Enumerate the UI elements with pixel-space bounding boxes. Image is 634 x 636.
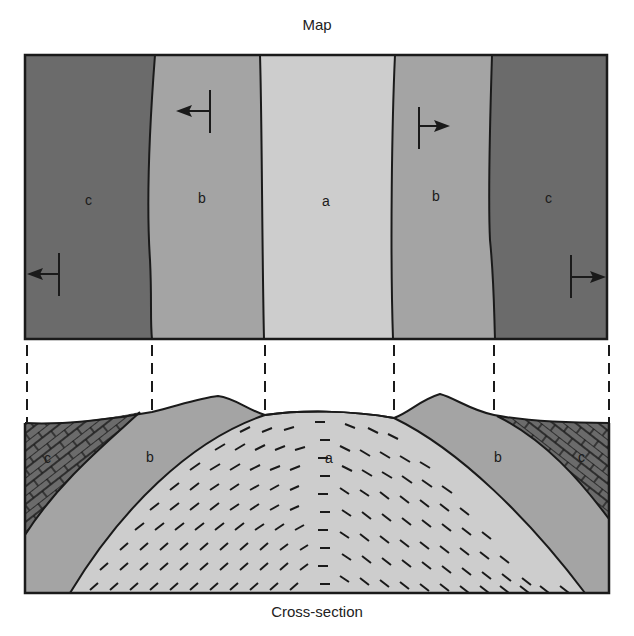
cross-section: c b a b c [25, 394, 609, 593]
map-label-b-right: b [432, 188, 440, 204]
map-label-c-right: c [545, 190, 552, 206]
diagram-canvas: c b a b c [0, 0, 634, 636]
xs-label-b-right: b [494, 449, 502, 465]
map-label-b-left: b [198, 190, 206, 206]
map-label-a: a [322, 193, 330, 209]
xs-label-c-right: c [578, 449, 585, 465]
map-label-c-left: c [85, 192, 92, 208]
map-unit-b-right [392, 55, 495, 339]
geologic-map: c b a b c [25, 55, 607, 339]
cross-section-title: Cross-section [0, 603, 634, 620]
map-unit-b-left [148, 55, 264, 339]
xs-label-c-left: c [44, 450, 51, 466]
xs-label-a: a [325, 450, 333, 466]
xs-label-b-left: b [146, 449, 154, 465]
